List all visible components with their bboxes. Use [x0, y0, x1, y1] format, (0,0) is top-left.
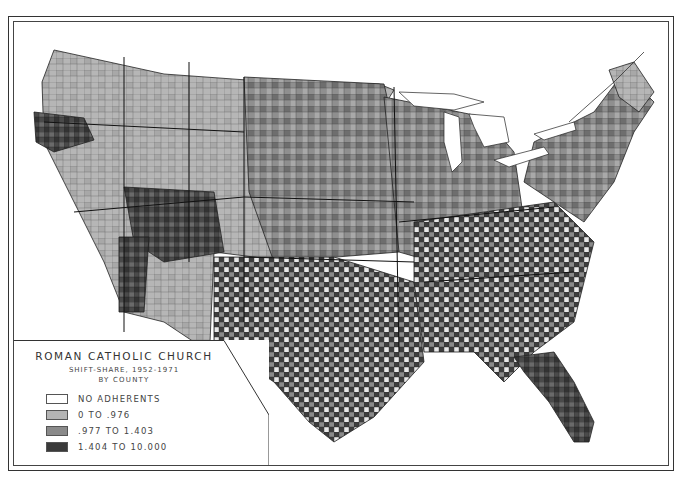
swatch-white: [46, 394, 68, 404]
legend-title: ROMAN CATHOLIC CHURCH: [24, 350, 224, 362]
swatch-light-gray: [46, 410, 68, 420]
legend-subtitle: SHIFT-SHARE, 1952-1971: [24, 366, 224, 374]
legend-item-low: 0 TO .976: [46, 408, 130, 422]
legend-item-high: 1.404 TO 10.000: [46, 440, 167, 454]
legend-item-medium: .977 TO 1.403: [46, 424, 154, 438]
swatch-dark-gray: [46, 442, 68, 452]
legend-item-no-adherents: NO ADHERENTS: [46, 392, 161, 406]
legend-subtitle-county: BY COUNTY: [24, 376, 224, 384]
swatch-medium-gray: [46, 426, 68, 436]
legend: ROMAN CATHOLIC CHURCH SHIFT-SHARE, 1952-…: [14, 340, 269, 465]
